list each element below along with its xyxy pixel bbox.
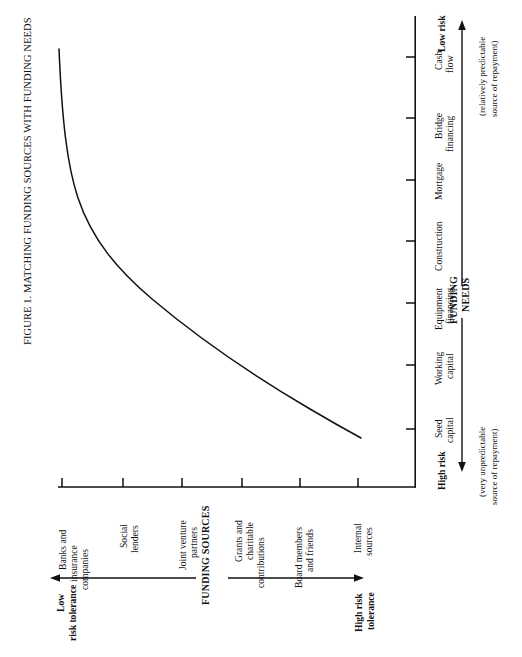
high-risk-sub-line2: source of repayment)	[489, 429, 499, 505]
low-risk-sub-line1: (relatively predictable	[477, 37, 487, 116]
need-tick-label-working-line2: capital	[445, 353, 456, 379]
source-tick-label-board-line2: and friends	[305, 529, 316, 572]
source-tick-label-banks-line3: companies	[80, 549, 91, 590]
low-risk-sub-line2: source of repayment)	[489, 41, 499, 117]
high-risk-tolerance-label: High risk	[354, 593, 365, 632]
source-tick-label-internal-line2: sources	[364, 527, 375, 556]
source-tick-label-grants-line3: contributions	[256, 537, 267, 588]
risk-match-curve	[59, 49, 361, 438]
funding-needs-caption-line2: NEEDS	[460, 278, 471, 312]
source-tick-label-joint-venture-line2: partners	[189, 527, 200, 558]
funding-sources-ticks	[62, 478, 358, 487]
figure-canvas: FIGURE 1. MATCHING FUNDING SOURCES WITH …	[0, 0, 522, 657]
low-risk-tolerance-label: Low	[56, 594, 67, 612]
need-tick-label-mortgage: Mortgage	[434, 163, 445, 200]
funding-needs-arrow	[458, 20, 466, 472]
low-risk-label: Low risk	[437, 15, 448, 52]
funding-sources-caption-line1: FUNDING SOURCES	[200, 506, 211, 605]
high-risk-label: High risk	[437, 451, 448, 490]
high-risk-tolerance-label-line2: tolerance	[366, 592, 377, 630]
funding-needs-ticks	[406, 57, 415, 429]
need-tick-label-construction: Construction	[434, 221, 445, 271]
source-tick-label-social-line2: lenders	[130, 525, 141, 553]
high-risk-sub-line1: (very unpredictable	[477, 427, 487, 497]
need-tick-label-bridge-line2: financing	[445, 116, 456, 152]
funding-needs-caption-line1: FUNDING	[448, 276, 459, 324]
low-risk-tolerance-label-line2: risk tolerance	[68, 585, 79, 641]
need-tick-label-seed-line2: capital	[445, 417, 456, 443]
need-tick-label-cash-line2: flow	[445, 55, 456, 73]
